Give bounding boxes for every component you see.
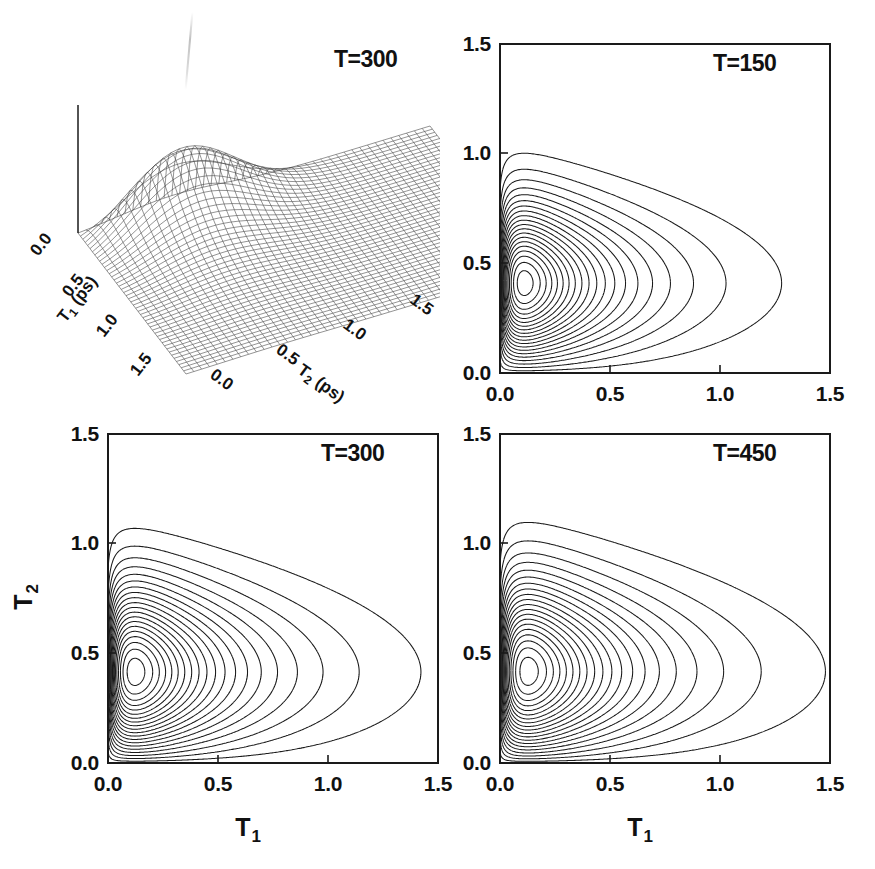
xaxis-subscript-t300: 1 xyxy=(250,827,260,846)
ytick-t450-3: 1.5 xyxy=(443,422,491,446)
xtick-t450-2: 1.0 xyxy=(706,772,734,796)
ytick-t300-3: 1.5 xyxy=(51,422,99,446)
xtick-t300-0: 0.0 xyxy=(94,772,122,796)
contour-level-5 xyxy=(501,201,638,354)
contour-level-3 xyxy=(108,567,297,753)
contour-level-19 xyxy=(520,657,538,685)
contour-level-1 xyxy=(108,546,359,758)
xaxis-symbol-t300: T xyxy=(235,813,250,841)
ytick-t150-3: 1.5 xyxy=(443,32,491,56)
contour-level-1 xyxy=(500,541,761,759)
xtick-t300-1: 0.5 xyxy=(204,772,232,796)
contour-level-3 xyxy=(500,188,670,361)
xaxis-symbol-t450: T xyxy=(627,813,642,841)
contour-level-1 xyxy=(500,169,726,367)
ytick-t150-0: 0.0 xyxy=(443,361,491,385)
contour-canvas-t450 xyxy=(430,430,875,869)
contour-level-19 xyxy=(127,658,145,685)
plot-frame-t150 xyxy=(500,44,830,373)
ytick-t300-0: 0.0 xyxy=(51,751,99,775)
ytick-t150-1: 0.5 xyxy=(443,251,491,275)
xtick-t300-2: 1.0 xyxy=(314,772,342,796)
xtick-t150-3: 1.5 xyxy=(816,382,844,406)
plot-frame-t300 xyxy=(108,434,438,763)
panel-contour-t450: T=450 1.5 1.0 0.5 0.0 0.0 0.5 1.0 1.5 T1 xyxy=(430,430,875,869)
contour-level-17 xyxy=(513,641,553,701)
ytick-t150-2: 1.0 xyxy=(443,141,491,165)
yaxis-subscript-t300: 2 xyxy=(23,584,42,594)
ytick-t450-2: 1.0 xyxy=(443,531,491,555)
contour-level-17 xyxy=(120,642,159,700)
figure-four-panel: T=300 0.0 0.5 1.0 1.5 T1 (ps) 0.0 0.5 1.… xyxy=(0,0,875,869)
panel-contour-t150: T=150 1.5 1.0 0.5 0.0 0.0 0.5 1.0 1.5 xyxy=(0,0,875,430)
contour-level-17 xyxy=(511,256,546,309)
xtick-t450-3: 1.5 xyxy=(816,772,844,796)
xtick-t150-0: 0.0 xyxy=(486,382,514,406)
panel-label-t450: T=450 xyxy=(713,440,776,467)
plot-frame-t450 xyxy=(500,434,830,763)
xtick-t450-1: 0.5 xyxy=(596,772,624,796)
contour-level-0 xyxy=(108,528,421,761)
ytick-t300-2: 1.0 xyxy=(51,531,99,555)
xaxis-title-t300: T1 xyxy=(235,813,261,847)
yaxis-symbol-t300: T xyxy=(9,595,37,610)
yaxis-title-t300: T2 xyxy=(9,567,43,627)
xaxis-subscript-t450: 1 xyxy=(642,827,652,846)
ytick-t450-0: 0.0 xyxy=(443,751,491,775)
xaxis-title-t450: T1 xyxy=(627,813,653,847)
xtick-t450-0: 0.0 xyxy=(486,772,514,796)
panel-label-t300-contour: T=300 xyxy=(321,440,384,467)
contour-level-19 xyxy=(517,271,533,296)
ytick-t300-1: 0.5 xyxy=(51,641,99,665)
xtick-t150-1: 0.5 xyxy=(596,382,624,406)
panel-contour-t300: T=300 1.5 1.0 0.5 0.0 0.0 0.5 1.0 1.5 T1… xyxy=(0,430,440,869)
panel-label-t150: T=150 xyxy=(713,50,776,77)
xtick-t150-2: 1.0 xyxy=(706,382,734,406)
ytick-t450-1: 0.5 xyxy=(443,641,491,665)
